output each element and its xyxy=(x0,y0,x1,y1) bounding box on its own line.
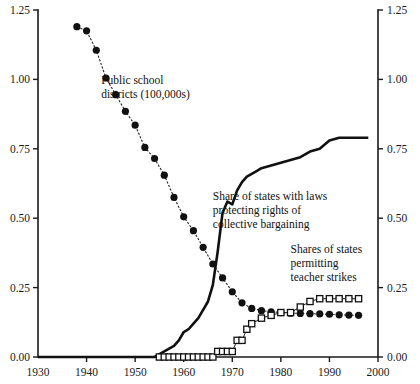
data-point-marker xyxy=(249,321,255,327)
data-point-marker xyxy=(297,304,303,310)
annotation-line: protecting rights of xyxy=(213,204,301,217)
ann-districts: Public schooldistricts (100,000s) xyxy=(101,74,190,101)
data-point-marker xyxy=(190,227,197,234)
y-tick-label-left: 0.75 xyxy=(10,143,30,155)
y-tick-label-right: 1.25 xyxy=(387,4,407,16)
data-point-marker xyxy=(336,296,342,302)
x-tick-label: 1940 xyxy=(75,366,98,378)
data-point-marker xyxy=(73,23,80,30)
x-tick-label: 1970 xyxy=(221,366,244,378)
data-point-marker xyxy=(258,307,265,314)
data-point-marker xyxy=(170,194,177,201)
data-point-marker xyxy=(229,348,235,354)
data-point-marker xyxy=(307,298,313,304)
data-point-marker xyxy=(326,296,332,302)
annotation-line: collective bargaining xyxy=(213,218,310,231)
data-point-marker xyxy=(278,309,284,315)
data-point-marker xyxy=(346,296,352,302)
y-tick-label-left: 1.25 xyxy=(10,4,30,16)
y-tick-label-right: 0.25 xyxy=(387,282,407,294)
y-tick-label-right: 0.00 xyxy=(387,351,407,363)
data-point-marker xyxy=(345,311,352,318)
axis-frame xyxy=(38,10,378,357)
x-tick-label: 1980 xyxy=(269,366,292,378)
axis-frame-path xyxy=(38,10,378,357)
data-point-marker xyxy=(355,296,361,302)
y-tick-label-left: 0.00 xyxy=(10,351,30,363)
data-point-marker xyxy=(258,315,264,321)
ann-strikes: Shares of statespermittingteacher strike… xyxy=(291,243,363,283)
series-shares-of-states-permitting-teacher-strikes xyxy=(156,296,361,361)
data-point-marker xyxy=(83,27,90,34)
chart-container: 0.000.250.500.751.001.25 0.000.250.500.7… xyxy=(0,0,420,384)
data-point-marker xyxy=(200,244,207,251)
x-tick-label: 1930 xyxy=(27,366,50,378)
y-tick-label-right: 0.50 xyxy=(387,212,407,224)
data-point-marker xyxy=(297,310,304,317)
data-point-marker xyxy=(161,172,168,179)
data-point-marker xyxy=(287,309,293,315)
data-point-marker xyxy=(122,108,129,115)
annotation-line: districts (100,000s) xyxy=(101,88,190,101)
annotation-line: teacher strikes xyxy=(291,271,358,283)
data-point-marker xyxy=(238,299,245,306)
y-tick-label-right: 0.75 xyxy=(387,143,407,155)
y-tick-label-left: 1.00 xyxy=(10,73,30,85)
annotation-line: Share of states with laws xyxy=(213,190,328,202)
data-point-marker xyxy=(306,310,313,317)
data-point-marker xyxy=(141,144,148,151)
data-point-marker xyxy=(248,305,255,312)
y-tick-label-left: 0.25 xyxy=(10,282,30,294)
x-tick-label: 1950 xyxy=(124,366,147,378)
data-point-marker xyxy=(180,213,187,220)
y-tick-label-right: 1.00 xyxy=(387,73,407,85)
ann-bargaining: Share of states with lawsprotecting righ… xyxy=(213,190,328,231)
data-point-marker xyxy=(317,296,323,302)
data-point-marker xyxy=(229,288,236,295)
x-tick-label: 1960 xyxy=(172,366,195,378)
annotation-line: Shares of states xyxy=(291,243,363,255)
annotation-line: Public school xyxy=(101,74,163,86)
x-tick-label: 1990 xyxy=(318,366,341,378)
data-point-marker xyxy=(316,310,323,317)
y-tick-label-left: 0.50 xyxy=(10,212,30,224)
data-point-marker xyxy=(93,47,100,54)
data-point-marker xyxy=(151,155,158,162)
y-axis-right-ticks: 0.000.250.500.751.001.25 xyxy=(378,4,407,363)
data-point-marker xyxy=(239,337,245,343)
annotation-line: permitting xyxy=(291,257,339,270)
data-point-marker xyxy=(326,311,333,318)
data-point-marker xyxy=(336,311,343,318)
data-point-marker xyxy=(268,312,274,318)
chart-plot: 0.000.250.500.751.001.25 0.000.250.500.7… xyxy=(0,0,420,384)
x-tick-label: 2000 xyxy=(367,366,390,378)
data-point-marker xyxy=(132,122,139,129)
data-point-marker xyxy=(355,312,362,319)
data-point-marker xyxy=(219,274,226,281)
y-axis-left-ticks: 0.000.250.500.751.001.25 xyxy=(10,4,38,363)
series-annotations: Public schooldistricts (100,000s)Share o… xyxy=(101,74,362,283)
